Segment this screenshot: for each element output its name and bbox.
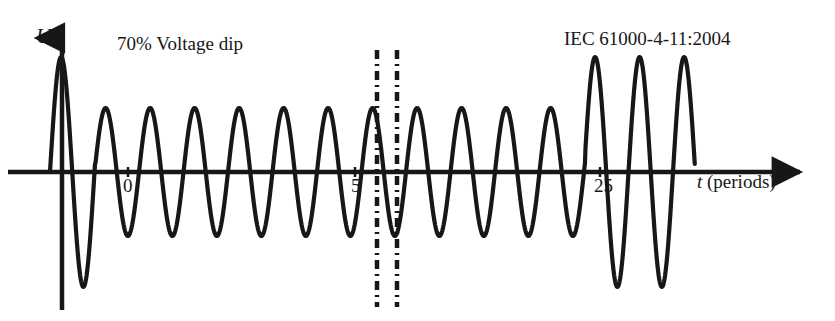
axis-break-marks	[377, 50, 397, 307]
voltage-dip-figure: U 70% Voltage dip IEC 61000-4-11:2004 t …	[0, 0, 835, 321]
annotation-iec-standard: IEC 61000-4-11:2004	[564, 29, 731, 48]
x-axis-label: t (periods)	[697, 172, 776, 191]
x-tick-label-0: 0	[123, 176, 133, 195]
y-axis-label: U	[36, 26, 51, 47]
x-tick-label-5: 5	[351, 176, 361, 195]
annotation-voltage-dip: 70% Voltage dip	[117, 34, 243, 53]
x-tick-label-25: 25	[594, 176, 613, 195]
x-axis-label-unit: (periods)	[702, 171, 775, 192]
